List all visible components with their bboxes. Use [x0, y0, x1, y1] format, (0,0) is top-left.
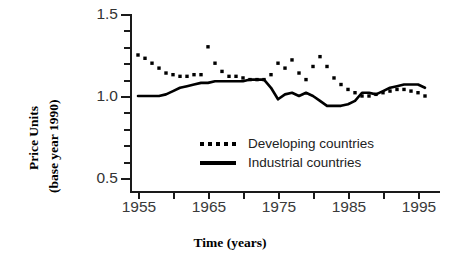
legend: Developing countries Industrial countrie…: [198, 134, 374, 172]
legend-key-solid-icon: [198, 156, 238, 170]
legend-label-industrial-countries: Industrial countries: [248, 155, 361, 170]
legend-label-developing-countries: Developing countries: [248, 136, 374, 151]
x-axis-title-text: Time (years): [194, 235, 267, 250]
x-axis-title: Time (years): [0, 235, 460, 251]
chart-figure: Price Units (base year 1990) 1.5 1.0 0.5…: [0, 0, 460, 273]
legend-item-industrial-countries: Industrial countries: [198, 153, 374, 172]
legend-key-dotted-icon: [198, 137, 238, 151]
legend-item-developing-countries: Developing countries: [198, 134, 374, 153]
